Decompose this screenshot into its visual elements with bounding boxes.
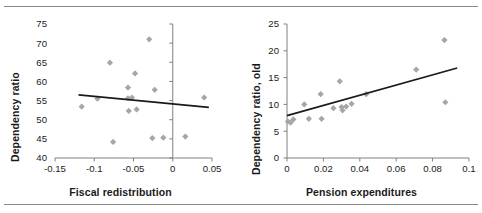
data-points-group bbox=[79, 36, 208, 145]
figure-container: 4045505560657075-0.15-0.1-0.0500.05 Depe… bbox=[0, 0, 482, 213]
data-point-marker bbox=[126, 108, 132, 114]
x-tick-label: 0.05 bbox=[203, 163, 222, 174]
y-axis-title-right: Dependency ratio, old bbox=[250, 63, 262, 175]
x-axis-title-right: Pension expenditures bbox=[241, 186, 482, 198]
y-tick-label: 65 bbox=[36, 57, 47, 68]
x-tick-label: 0.02 bbox=[314, 163, 333, 174]
data-point-marker bbox=[442, 99, 448, 105]
data-point-marker bbox=[182, 133, 188, 139]
y-tick-label: 45 bbox=[36, 133, 47, 144]
y-tick-label: 55 bbox=[36, 95, 47, 106]
data-point-marker bbox=[146, 36, 152, 42]
trend-line bbox=[287, 68, 457, 116]
y-tick-label: 25 bbox=[268, 18, 279, 29]
data-point-marker bbox=[318, 116, 324, 122]
bottom-rule bbox=[4, 204, 478, 205]
x-tick-label: 0 bbox=[170, 163, 175, 174]
y-tick-label: 60 bbox=[36, 76, 47, 87]
y-tick-label: 0 bbox=[274, 152, 279, 163]
x-tick-label: 0.06 bbox=[387, 163, 406, 174]
x-tick-label: 0.1 bbox=[462, 163, 475, 174]
data-point-marker bbox=[349, 101, 355, 107]
data-point-marker bbox=[318, 91, 324, 97]
panel-fiscal-redistribution: 4045505560657075-0.15-0.1-0.0500.05 Depe… bbox=[0, 10, 241, 200]
panel-pension-expenditures: 051015202500.020.040.060.080.1 Dependenc… bbox=[241, 10, 482, 200]
scatter-plot-right: 051015202500.020.040.060.080.1 bbox=[241, 10, 482, 200]
x-tick-label: 0.08 bbox=[423, 163, 442, 174]
plot-area-right: 051015202500.020.040.060.080.1 bbox=[241, 10, 482, 200]
data-point-marker bbox=[110, 139, 116, 145]
y-tick-label: 5 bbox=[274, 126, 279, 137]
data-point-marker bbox=[330, 105, 336, 111]
y-tick-label: 75 bbox=[36, 18, 47, 29]
data-point-marker bbox=[79, 104, 85, 110]
data-point-marker bbox=[134, 106, 140, 112]
x-tick-label: -0.15 bbox=[44, 163, 66, 174]
x-axis-title-left: Fiscal redistribution bbox=[0, 186, 241, 198]
y-tick-label: 15 bbox=[268, 72, 279, 83]
data-point-marker bbox=[132, 70, 138, 76]
data-point-marker bbox=[152, 87, 158, 93]
data-point-marker bbox=[337, 78, 343, 84]
trend-line bbox=[79, 95, 209, 108]
data-point-marker bbox=[441, 37, 447, 43]
data-point-marker bbox=[107, 60, 113, 66]
plot-area-left: 4045505560657075-0.15-0.1-0.0500.05 bbox=[0, 10, 241, 200]
data-point-marker bbox=[149, 135, 155, 141]
data-point-marker bbox=[125, 84, 131, 90]
data-point-marker bbox=[301, 101, 307, 107]
y-tick-label: 50 bbox=[36, 114, 47, 125]
x-tick-label: 0 bbox=[284, 163, 289, 174]
data-point-marker bbox=[306, 116, 312, 122]
x-tick-label: -0.1 bbox=[86, 163, 103, 174]
data-points-group bbox=[285, 37, 449, 126]
y-tick-label: 10 bbox=[268, 99, 279, 110]
data-point-marker bbox=[201, 94, 207, 100]
data-point-marker bbox=[160, 135, 166, 141]
scatter-plot-left: 4045505560657075-0.15-0.1-0.0500.05 bbox=[0, 10, 241, 200]
y-axis-title-left: Dependency ratio bbox=[9, 72, 21, 162]
data-point-marker bbox=[413, 66, 419, 72]
y-tick-label: 40 bbox=[36, 152, 47, 163]
top-rule bbox=[4, 6, 478, 7]
y-tick-label: 20 bbox=[268, 45, 279, 56]
y-tick-label: 70 bbox=[36, 38, 47, 49]
x-tick-label: 0.04 bbox=[350, 163, 369, 174]
x-tick-label: -0.05 bbox=[123, 163, 145, 174]
